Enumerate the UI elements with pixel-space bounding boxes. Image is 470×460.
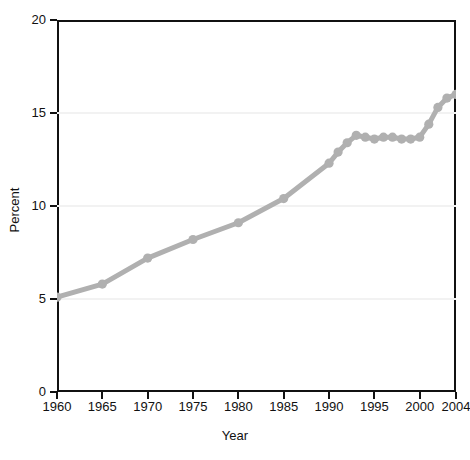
x-tick-label: 2004 <box>442 400 470 413</box>
data-point-marker <box>397 134 406 143</box>
x-tick-mark <box>373 392 375 399</box>
data-point-marker <box>361 133 370 142</box>
y-tick-label: 5 <box>0 292 46 305</box>
data-point-marker <box>234 218 243 227</box>
y-tick-mark <box>50 298 57 300</box>
data-point-marker <box>334 147 343 156</box>
data-point-marker <box>98 280 107 289</box>
data-point-marker <box>352 131 361 140</box>
data-point-marker <box>143 253 152 262</box>
y-tick-mark <box>50 205 57 207</box>
x-tick-mark <box>192 392 194 399</box>
data-point-marker <box>433 103 442 112</box>
x-tick-label: 1995 <box>360 400 389 413</box>
data-point-marker <box>379 133 388 142</box>
data-point-marker <box>370 134 379 143</box>
data-markers <box>57 90 456 302</box>
chart-figure: Percent 05101520 19601965197019751980198… <box>0 0 470 460</box>
data-point-marker <box>324 159 333 168</box>
x-tick-label: 1975 <box>179 400 208 413</box>
x-tick-mark <box>455 392 457 399</box>
x-tick-mark <box>237 392 239 399</box>
data-point-marker <box>415 133 424 142</box>
x-tick-label: 2000 <box>405 400 434 413</box>
data-line <box>57 94 456 297</box>
data-point-marker <box>388 133 397 142</box>
x-tick-mark <box>283 392 285 399</box>
x-tick-label: 1970 <box>133 400 162 413</box>
data-point-marker <box>188 235 197 244</box>
x-tick-mark <box>101 392 103 399</box>
line-chart-plot <box>57 20 456 392</box>
y-tick-label: 20 <box>0 13 46 26</box>
data-point-marker <box>406 134 415 143</box>
x-tick-mark <box>147 392 149 399</box>
y-tick-label: 10 <box>0 199 46 212</box>
gridlines <box>57 113 456 299</box>
x-tick-mark <box>419 392 421 399</box>
data-point-marker <box>343 138 352 147</box>
x-tick-label: 1990 <box>315 400 344 413</box>
data-point-marker <box>279 194 288 203</box>
y-tick-mark <box>50 19 57 21</box>
x-axis-title: Year <box>0 428 470 443</box>
x-tick-label: 1985 <box>269 400 298 413</box>
x-tick-mark <box>328 392 330 399</box>
y-tick-mark <box>50 112 57 114</box>
x-tick-mark <box>56 392 58 399</box>
y-tick-label: 0 <box>0 385 46 398</box>
x-tick-label: 1965 <box>88 400 117 413</box>
x-tick-label: 1960 <box>43 400 72 413</box>
x-tick-label: 1980 <box>224 400 253 413</box>
data-point-marker <box>424 120 433 129</box>
y-tick-label: 15 <box>0 106 46 119</box>
data-point-marker <box>442 94 451 103</box>
